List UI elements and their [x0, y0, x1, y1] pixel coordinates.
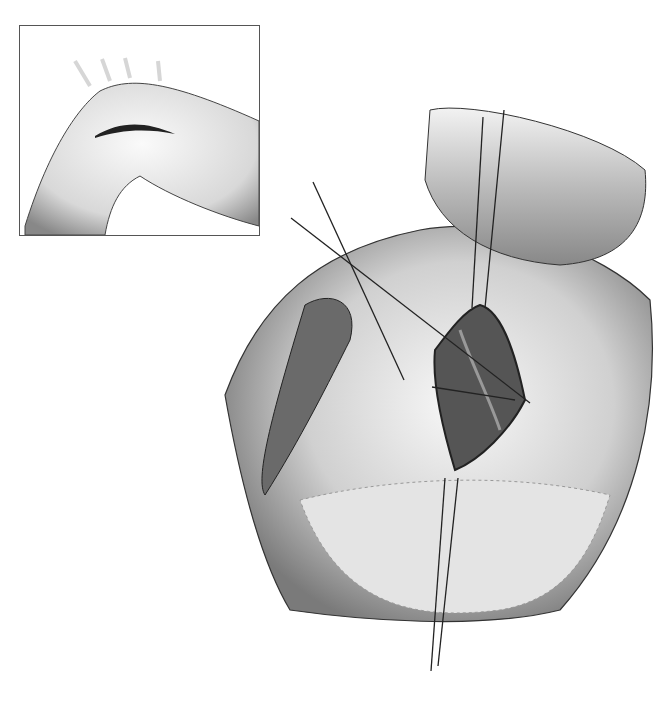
- vessel: [262, 298, 352, 495]
- stay-sutures: [291, 110, 530, 671]
- fat-tissue: [300, 480, 610, 613]
- retracted-structure: [425, 108, 646, 265]
- inset-frame: [19, 25, 260, 236]
- shoulder-inset-illustration: [20, 26, 259, 235]
- tissue-field: [225, 226, 652, 621]
- incision-opening: [434, 305, 525, 470]
